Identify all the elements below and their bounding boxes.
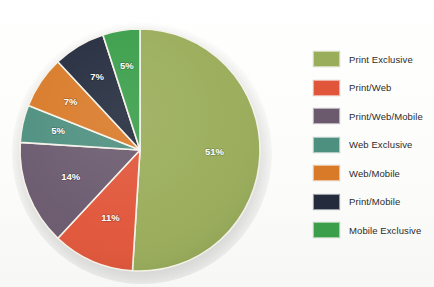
legend-item-label: Print/Web/Mobile [349, 111, 423, 122]
pie-slice-label: 7% [90, 71, 104, 82]
legend-item-label: Mobile Exclusive [349, 225, 421, 236]
legend-item[interactable]: Print Exclusive [313, 45, 431, 74]
pie-slice-label: 51% [205, 146, 225, 157]
legend-item-label: Web Exclusive [349, 139, 412, 150]
legend-color-swatch [313, 194, 340, 210]
legend-color-swatch [313, 51, 340, 67]
legend-item[interactable]: Print/Mobile [313, 188, 431, 217]
legend-color-swatch [313, 108, 340, 124]
legend-color-swatch [313, 222, 340, 238]
pie-chart-svg: 51%11%14%5%7%7%5% [8, 16, 276, 286]
chart-legend: Print ExclusivePrint/WebPrint/Web/Mobile… [313, 45, 431, 245]
pie-chart-figure: 51%11%14%5%7%7%5% Print ExclusivePrint/W… [0, 0, 434, 287]
legend-item[interactable]: Web Exclusive [313, 131, 431, 160]
legend-item[interactable]: Print/Web/Mobile [313, 102, 431, 131]
pie-slice-group [20, 29, 260, 271]
legend-item[interactable]: Web/Mobile [313, 159, 431, 188]
legend-color-swatch [313, 80, 340, 96]
legend-color-swatch [313, 137, 340, 153]
legend-item-label: Web/Mobile [349, 168, 400, 179]
legend-item-label: Print/Web [349, 82, 391, 93]
pie-slice-label: 11% [101, 212, 120, 223]
legend-item[interactable]: Mobile Exclusive [313, 216, 431, 245]
pie-slice-label: 14% [61, 171, 81, 182]
legend-color-swatch [313, 165, 340, 181]
legend-item[interactable]: Print/Web [313, 74, 431, 103]
pie-slice-label: 7% [64, 96, 78, 107]
pie-slice-label: 5% [51, 125, 65, 136]
legend-item-label: Print/Mobile [349, 196, 400, 207]
pie-slice-label: 5% [120, 60, 134, 71]
legend-item-label: Print Exclusive [349, 54, 413, 65]
pie-chart-plot-area: 51%11%14%5%7%7%5% [8, 16, 276, 286]
